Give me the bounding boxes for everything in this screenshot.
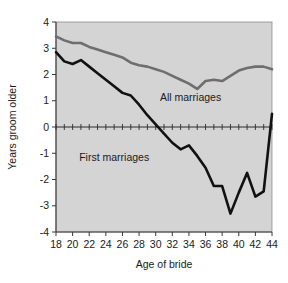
marriage-age-difference-line-chart: 43210-1-2-3-4182022242628303234363840424… xyxy=(0,0,288,283)
x-axis-tick-label: 26 xyxy=(117,238,129,250)
x-axis-tick-label: 18 xyxy=(50,238,62,250)
y-axis-tick-label: 0 xyxy=(43,121,49,133)
y-axis-tick-label: -1 xyxy=(40,147,49,159)
x-axis-tick-label: 34 xyxy=(183,238,195,250)
x-axis-tick-label: 44 xyxy=(266,238,278,250)
y-axis-tick-label: -3 xyxy=(40,199,49,211)
x-axis-tick-label: 20 xyxy=(67,238,79,250)
y-axis-tick-label: -4 xyxy=(40,226,49,238)
y-axis-tick-label: 2 xyxy=(43,68,49,80)
y-axis-tick-label: 3 xyxy=(43,42,49,54)
x-axis-tick-label: 32 xyxy=(166,238,178,250)
chart-figure: 43210-1-2-3-4182022242628303234363840424… xyxy=(0,0,288,283)
x-axis-tick-label: 22 xyxy=(83,238,95,250)
y-axis-title: Years groom older xyxy=(6,84,18,170)
x-axis-tick-label: 28 xyxy=(133,238,145,250)
x-axis-tick-label: 30 xyxy=(150,238,162,250)
y-axis-tick-label: -2 xyxy=(40,173,49,185)
x-axis-tick-label: 40 xyxy=(233,238,245,250)
series-annotation-all-marriages: All marriages xyxy=(160,91,221,103)
x-axis-tick-label: 36 xyxy=(200,238,212,250)
series-annotation-first-marriages: First marriages xyxy=(79,151,149,163)
x-axis-title: Age of bride xyxy=(136,258,193,270)
x-axis-tick-label: 24 xyxy=(100,238,112,250)
x-axis-tick-label: 42 xyxy=(250,238,262,250)
y-axis-tick-label: 4 xyxy=(43,16,49,28)
x-axis-tick-label: 38 xyxy=(216,238,228,250)
y-axis-tick-label: 1 xyxy=(43,94,49,106)
